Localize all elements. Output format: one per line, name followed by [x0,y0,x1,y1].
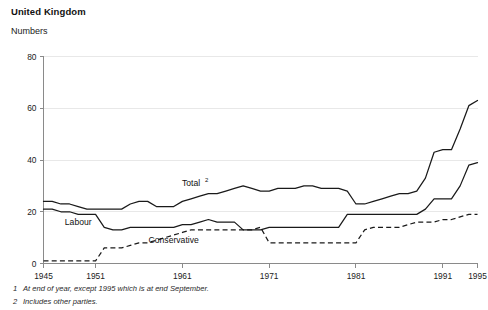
series-label-superscript: 2 [205,177,209,183]
chart-page: United Kingdom Numbers 020406080 1945195… [0,0,488,310]
series-label-conservative: Conservative [149,235,199,245]
gridlines [44,57,478,212]
series-line-total [44,100,478,209]
footnotes: 1At end of year, except 1995 which is at… [13,283,209,308]
footnote-1-number: 1 [13,283,23,296]
x-tick-label: 1951 [86,271,105,281]
y-tick-label: 80 [27,52,37,62]
x-tick-label: 1961 [173,271,192,281]
footnote-1: 1At end of year, except 1995 which is at… [13,283,209,296]
x-tick-label: 1991 [433,271,452,281]
x-tick-label: 1971 [260,271,279,281]
x-tick-label: 1981 [347,271,366,281]
x-tick-label: 1995 [468,271,487,281]
y-tick-label: 20 [27,207,37,217]
series-inline-labels: Total2LabourConservative [65,177,209,245]
y-axis: 020406080 [27,52,43,269]
y-tick-label: 40 [27,155,37,165]
line-chart: 020406080 1945195119611971198119911995 T… [0,0,488,280]
footnote-2-number: 2 [13,296,23,309]
x-axis: 1945195119611971198119911995 [34,264,487,281]
footnote-2-text: Includes other parties. [23,297,98,306]
series-paths [44,100,478,260]
y-tick-label: 0 [32,259,37,269]
y-tick-label: 60 [27,103,37,113]
series-label-total: Total [182,178,200,188]
series-label-labour: Labour [65,217,92,227]
footnote-1-text: At end of year, except 1995 which is at … [23,284,209,293]
series-line-labour [44,163,478,230]
footnote-2: 2Includes other parties. [13,296,209,309]
x-tick-label: 1945 [34,271,53,281]
series-line-conservative [44,214,478,261]
